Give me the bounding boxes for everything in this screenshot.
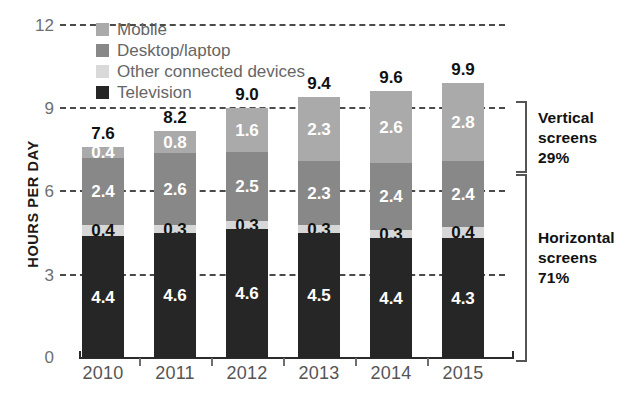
x-tick-label-2013: 2013 bbox=[289, 363, 349, 384]
x-tick-label-2010: 2010 bbox=[73, 363, 133, 384]
bracket-horizontal-screens bbox=[516, 174, 527, 362]
bar-total-2011: 8.2 bbox=[154, 109, 196, 126]
bar-segment-mobile-2011[interactable]: 0.8 bbox=[154, 131, 196, 153]
bar-segment-mobile-2014[interactable]: 2.6 bbox=[370, 91, 412, 163]
x-tick-2014-2015 bbox=[427, 358, 429, 366]
bar-group-2012[interactable]: 9.0 1.6 2.5 0.3 4.6 bbox=[226, 108, 268, 358]
x-tick-label-2014: 2014 bbox=[361, 363, 421, 384]
stacked-bar-chart: HOURS PER DAY 12 9 6 3 0 2010 2011 2012 … bbox=[0, 0, 644, 395]
annotation-horizontal-line3: 71% bbox=[538, 268, 644, 288]
legend-item-mobile[interactable]: Mobile bbox=[96, 20, 305, 39]
legend-swatch-desktop-laptop-icon bbox=[96, 44, 109, 57]
bar-segment-television-2014[interactable]: 4.4 bbox=[370, 238, 412, 358]
bar-group-2014[interactable]: 9.6 2.6 2.4 0.3 4.4 bbox=[370, 91, 412, 358]
legend-swatch-other-connected-devices-icon bbox=[96, 65, 109, 78]
annotation-horizontal-screens: Horizontal screens 71% bbox=[538, 228, 644, 287]
x-axis-left-cap bbox=[79, 351, 81, 358]
annotation-horizontal-line2: screens bbox=[538, 248, 644, 268]
gridline-6 bbox=[60, 190, 505, 192]
bar-segment-mobile-2012[interactable]: 1.6 bbox=[226, 108, 268, 152]
bar-group-2015[interactable]: 9.9 2.8 2.4 0.4 4.3 bbox=[442, 83, 484, 358]
bar-segment-desktop-2012[interactable]: 2.5 bbox=[226, 152, 268, 221]
legend-swatch-mobile-icon bbox=[96, 23, 109, 36]
bar-segment-television-2011[interactable]: 4.6 bbox=[154, 233, 196, 358]
bar-segment-desktop-2011[interactable]: 2.6 bbox=[154, 153, 196, 225]
bar-segment-other-2010[interactable]: 0.4 bbox=[82, 225, 124, 236]
bar-segment-desktop-2013[interactable]: 2.3 bbox=[298, 161, 340, 225]
legend-swatch-television-icon bbox=[96, 86, 109, 99]
legend-label-television: Television bbox=[117, 84, 192, 101]
y-tick-label-6: 6 bbox=[28, 183, 54, 200]
bar-segment-other-2012[interactable]: 0.3 bbox=[226, 221, 268, 229]
bar-segment-other-2013[interactable]: 0.3 bbox=[298, 225, 340, 233]
legend-label-mobile: Mobile bbox=[117, 21, 167, 38]
bar-segment-other-2015[interactable]: 0.4 bbox=[442, 227, 484, 238]
annotation-vertical-line1: Vertical bbox=[538, 108, 638, 128]
bar-segment-other-2011[interactable]: 0.3 bbox=[154, 225, 196, 233]
bar-segment-mobile-2015[interactable]: 2.8 bbox=[442, 83, 484, 161]
legend-item-other-connected-devices[interactable]: Other connected devices bbox=[96, 62, 305, 81]
bar-total-2015: 9.9 bbox=[442, 61, 484, 78]
bar-total-2014: 9.6 bbox=[370, 69, 412, 86]
bar-segment-television-2010[interactable]: 4.4 bbox=[82, 236, 124, 358]
bar-segment-desktop-2010[interactable]: 2.4 bbox=[82, 158, 124, 225]
legend-item-desktop-laptop[interactable]: Desktop/laptop bbox=[96, 41, 305, 60]
bar-group-2011[interactable]: 8.2 0.8 2.6 0.3 4.6 bbox=[154, 131, 196, 358]
bar-segment-mobile-2010[interactable]: 0.4 bbox=[82, 147, 124, 158]
bar-segment-mobile-2013[interactable]: 2.3 bbox=[298, 97, 340, 161]
bar-segment-television-2013[interactable]: 4.5 bbox=[298, 233, 340, 358]
bar-group-2013[interactable]: 9.4 2.3 2.3 0.3 4.5 bbox=[298, 97, 340, 358]
annotation-horizontal-line1: Horizontal bbox=[538, 228, 644, 248]
x-tick-2010-2011 bbox=[139, 358, 141, 366]
y-tick-label-9: 9 bbox=[28, 100, 54, 117]
x-tick-2011-2012 bbox=[211, 358, 213, 366]
bar-segment-desktop-2014[interactable]: 2.4 bbox=[370, 163, 412, 230]
y-tick-label-12: 12 bbox=[28, 17, 54, 34]
x-tick-2012-2013 bbox=[283, 358, 285, 366]
bar-segment-desktop-2015[interactable]: 2.4 bbox=[442, 161, 484, 227]
bar-segment-television-2012[interactable]: 4.6 bbox=[226, 229, 268, 358]
y-tick-label-3: 3 bbox=[28, 267, 54, 284]
bar-total-2010: 7.6 bbox=[82, 125, 124, 142]
gridline-3 bbox=[60, 274, 505, 276]
y-tick-label-0: 0 bbox=[28, 349, 54, 366]
bar-segment-other-2014[interactable]: 0.3 bbox=[370, 230, 412, 238]
annotation-vertical-screens: Vertical screens 29% bbox=[538, 108, 638, 167]
legend-label-other-connected-devices: Other connected devices bbox=[117, 63, 305, 80]
bar-group-2010[interactable]: 7.6 0.4 2.4 0.4 4.4 bbox=[82, 147, 124, 358]
x-tick-label-2012: 2012 bbox=[217, 363, 277, 384]
bar-segment-television-2015[interactable]: 4.3 bbox=[442, 238, 484, 358]
y-axis-title: HOURS PER DAY bbox=[25, 129, 41, 279]
x-tick-label-2011: 2011 bbox=[145, 363, 205, 384]
annotation-vertical-line3: 29% bbox=[538, 148, 638, 168]
x-axis-right-cap bbox=[512, 351, 514, 358]
legend-item-television[interactable]: Television bbox=[96, 83, 305, 102]
bracket-vertical-screens bbox=[516, 101, 527, 173]
gridline-9 bbox=[60, 107, 505, 109]
x-tick-label-2015: 2015 bbox=[433, 363, 493, 384]
legend-label-desktop-laptop: Desktop/laptop bbox=[117, 42, 230, 59]
x-tick-2013-2014 bbox=[355, 358, 357, 366]
chart-legend: Mobile Desktop/laptop Other connected de… bbox=[96, 20, 305, 104]
annotation-vertical-line2: screens bbox=[538, 128, 638, 148]
